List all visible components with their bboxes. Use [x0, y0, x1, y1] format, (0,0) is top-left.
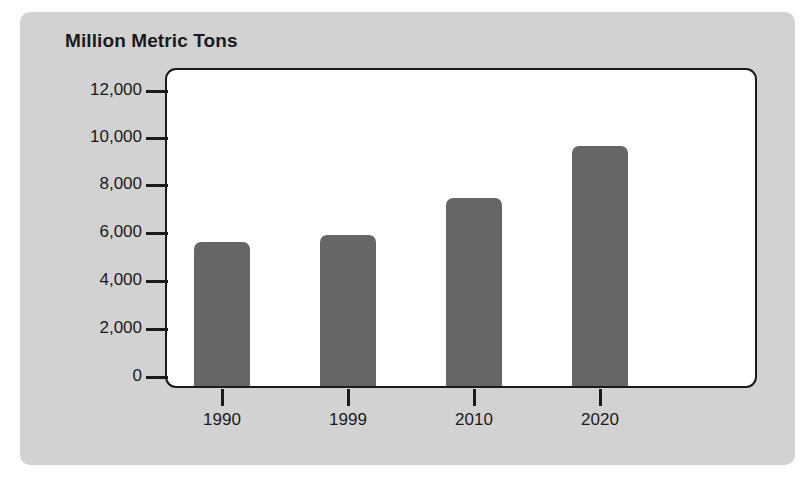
y-axis-tick-mark [146, 184, 168, 187]
plot-area [165, 68, 757, 388]
y-axis-tick-mark [146, 232, 168, 235]
x-axis-tick-mark [221, 389, 224, 406]
y-axis-tick-label: 10,000 [90, 127, 142, 147]
x-axis-tick-label: 2020 [581, 410, 619, 430]
chart-figure: Million Metric Tons 12,000 10,000 8,000 … [0, 0, 805, 477]
y-axis-tick-label: 12,000 [90, 80, 142, 100]
x-axis-tick-label: 2010 [455, 410, 493, 430]
y-axis-tick-mark [146, 328, 168, 331]
y-axis-tick-label: 8,000 [99, 174, 142, 194]
y-axis-tick-mark [146, 280, 168, 283]
y-axis-tick-label: 6,000 [99, 222, 142, 242]
y-axis-tick-label: 0 [133, 366, 142, 386]
chart-title: Million Metric Tons [65, 30, 238, 52]
y-axis-tick-mark [146, 90, 168, 93]
y-axis-tick-label: 4,000 [99, 270, 142, 290]
x-axis-tick-mark [347, 389, 350, 406]
y-axis-tick-mark [146, 376, 168, 379]
x-axis-tick-mark [473, 389, 476, 406]
x-axis-tick-label: 1999 [329, 410, 367, 430]
y-axis-tick-label: 2,000 [99, 318, 142, 338]
y-axis-tick-mark [146, 137, 168, 140]
x-axis-tick-label: 1990 [203, 410, 241, 430]
x-axis-tick-mark [599, 389, 602, 406]
